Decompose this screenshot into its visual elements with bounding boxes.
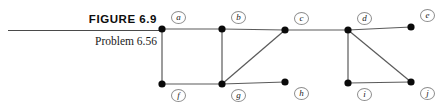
graph-node-a xyxy=(158,25,165,32)
graph-node-label-h: h xyxy=(294,87,309,100)
graph-edge-g-c xyxy=(222,30,285,84)
graph-diagram: abcdefghij xyxy=(0,0,448,112)
graph-node-i xyxy=(344,79,351,86)
graph-node-label-c: c xyxy=(294,12,309,25)
graph-node-label-b: b xyxy=(231,11,246,24)
graph-node-label-g: g xyxy=(231,89,246,102)
graph-edge-d-e xyxy=(348,27,411,30)
graph-node-h xyxy=(281,78,288,85)
graph-node-j xyxy=(407,78,414,85)
graph-node-f xyxy=(158,80,165,87)
graph-node-label-f: f xyxy=(171,89,186,102)
graph-edge-i-j xyxy=(348,82,411,83)
graph-edge-b-c xyxy=(222,29,285,30)
graph-node-d xyxy=(344,26,351,33)
graph-edge-d-j xyxy=(348,30,411,82)
graph-node-g xyxy=(218,80,225,87)
graph-node-b xyxy=(218,25,225,32)
graph-node-label-j: j xyxy=(420,87,435,100)
graph-node-e xyxy=(407,23,414,30)
graph-node-label-d: d xyxy=(357,12,372,25)
graph-node-label-i: i xyxy=(357,88,372,101)
graph-node-c xyxy=(281,26,288,33)
graph-edge-g-h xyxy=(222,82,285,84)
graph-canvas xyxy=(0,0,448,112)
graph-node-label-e: e xyxy=(420,9,435,22)
graph-node-label-a: a xyxy=(171,11,186,24)
figure-container: FIGURE 6.9 Problem 6.56 abcdefghij xyxy=(0,0,448,112)
